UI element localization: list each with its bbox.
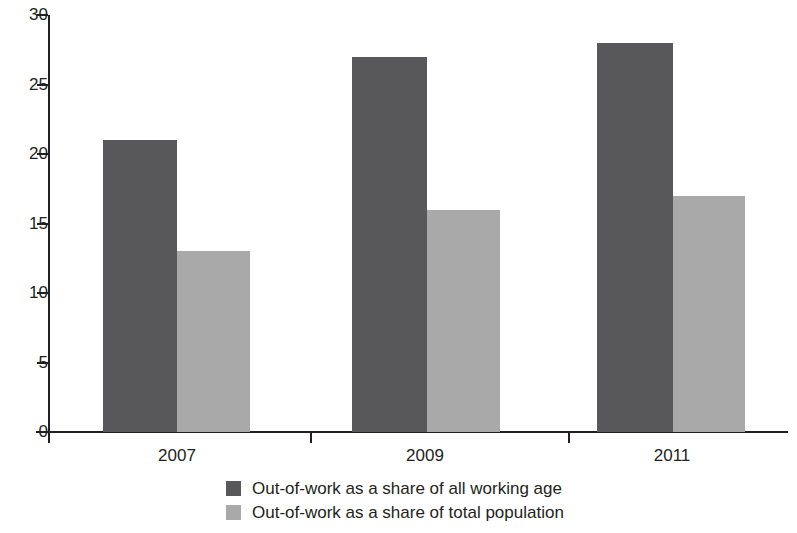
- x-axis-tick-mark: [568, 432, 570, 443]
- bar-2011-series-2: [673, 196, 745, 432]
- bar-2009-series-2: [427, 210, 500, 432]
- legend-label: Out-of-work as a share of all working ag…: [252, 479, 562, 498]
- x-axis-tick-mark: [310, 432, 312, 443]
- legend-swatch-icon: [226, 481, 241, 496]
- legend-label: Out-of-work as a share of total populati…: [252, 503, 564, 522]
- x-axis-tick-mark: [48, 432, 50, 443]
- bar-2007-series-1: [103, 140, 177, 432]
- legend-item-2: Out-of-work as a share of total populati…: [0, 500, 797, 524]
- bar-chart: 302520151050 200720092011 Out-of-work as…: [0, 0, 797, 533]
- x-axis-label-2011: 2011: [632, 446, 712, 466]
- bar-2009-series-1: [352, 57, 427, 432]
- legend-item-1: Out-of-work as a share of all working ag…: [0, 476, 797, 500]
- bars-layer: [0, 15, 797, 432]
- bar-2007-series-2: [177, 251, 250, 432]
- legend-swatch-icon: [226, 505, 241, 520]
- x-axis-label-2007: 2007: [137, 446, 217, 466]
- chart-legend: Out-of-work as a share of all working ag…: [0, 476, 797, 524]
- bar-2011-series-1: [597, 43, 673, 432]
- x-axis-label-2009: 2009: [385, 446, 465, 466]
